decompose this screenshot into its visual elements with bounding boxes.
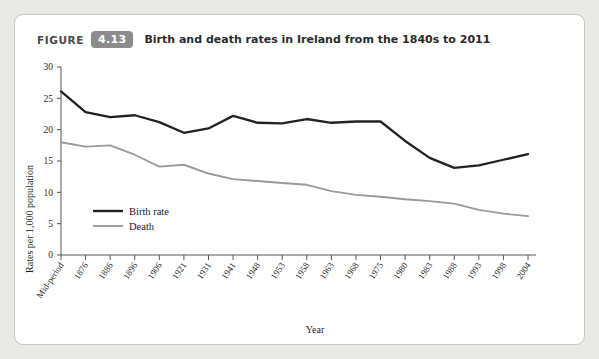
y-tick-label: 30 xyxy=(44,62,54,72)
data-series-group xyxy=(61,91,528,216)
x-tick-label: 1886 xyxy=(96,260,115,281)
legend-label-death: Death xyxy=(129,221,155,232)
y-tick-label: 0 xyxy=(48,250,53,260)
x-tick-label: 1975 xyxy=(367,260,386,281)
x-tick-label: 1941 xyxy=(219,261,237,282)
y-tick-label: 25 xyxy=(44,94,54,104)
figure-label-word: FIGURE xyxy=(37,34,84,46)
y-tick-label: 20 xyxy=(44,125,54,135)
y-tick-label: 10 xyxy=(44,188,54,198)
chart-legend: Birth rateDeath xyxy=(93,206,169,232)
x-tick-label: 1963 xyxy=(318,260,337,281)
figure-card: FIGURE 4.13 Birth and death rates in Ire… xyxy=(14,14,585,345)
x-axis-title: Year xyxy=(306,324,325,335)
x-tick-label: 1921 xyxy=(170,261,188,282)
y-tick-label: 15 xyxy=(44,156,54,166)
x-tick-label: 1876 xyxy=(72,260,91,281)
x-tick-label: 1896 xyxy=(121,260,140,281)
x-tick-label: 1958 xyxy=(293,260,312,281)
y-axis: 051015202530 xyxy=(44,62,62,260)
x-tick-label: 1983 xyxy=(416,260,435,281)
y-tick-label: 5 xyxy=(48,219,53,229)
x-tick-label: 1998 xyxy=(490,260,509,281)
x-tick-label: 2004 xyxy=(514,260,533,281)
x-tick-label: 1968 xyxy=(342,260,361,281)
x-tick-label: 1931 xyxy=(195,261,213,282)
y-axis-title: Rates per 1,000 population xyxy=(24,165,35,273)
line-chart: 051015202530 Mid-period18761886189619061… xyxy=(15,59,586,344)
x-tick-label: Mid-period xyxy=(34,260,65,300)
x-tick-label: 1993 xyxy=(465,260,484,281)
x-tick-label: 1948 xyxy=(244,260,263,281)
chart-plot-area: 051015202530 Mid-period18761886189619061… xyxy=(15,59,586,344)
figure-header: FIGURE 4.13 Birth and death rates in Ire… xyxy=(37,31,490,48)
x-tick-label: 1988 xyxy=(441,260,460,281)
x-tick-label: 1953 xyxy=(269,260,288,281)
figure-number-badge: 4.13 xyxy=(91,31,133,48)
x-tick-label: 1906 xyxy=(146,260,165,281)
figure-title: Birth and death rates in Ireland from th… xyxy=(144,33,490,46)
series-line-birth-rate xyxy=(61,91,528,167)
x-tick-label: 1980 xyxy=(391,260,410,281)
legend-label-birth-rate: Birth rate xyxy=(129,206,169,217)
x-axis: Mid-period187618861896190619211931194119… xyxy=(34,255,536,300)
